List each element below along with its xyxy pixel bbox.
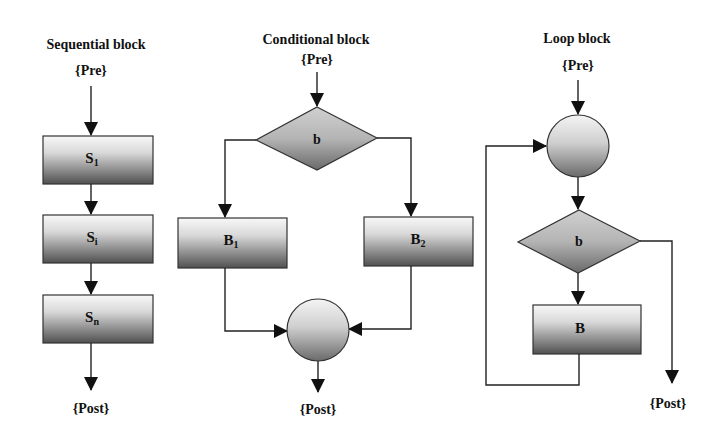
arrow-b-true-to-b1: [225, 140, 256, 217]
loop-entry-node: [547, 115, 609, 177]
sequential-title: Sequential block: [46, 37, 145, 52]
sequential-pre-label: {Pre}: [75, 63, 107, 78]
loop-pre-label: {Pre}: [562, 58, 594, 73]
node-b2: B2: [364, 217, 473, 266]
arrow-b1-to-merge: [225, 268, 287, 331]
sequential-block: Sequential block {Pre} S1 Si Sn {Post}: [43, 37, 153, 416]
node-sn: Sn: [43, 295, 153, 343]
svg-text:b: b: [575, 234, 583, 249]
conditional-pre-label: {Pre}: [301, 52, 333, 67]
flowchart-diagram: Sequential block {Pre} S1 Si Sn {Post} C…: [0, 0, 721, 434]
svg-text:B: B: [575, 320, 585, 336]
node-s1: S1: [43, 136, 153, 184]
loop-block: Loop block {Pre} b B {Post}: [486, 31, 687, 411]
conditional-decision: b: [256, 107, 377, 170]
conditional-block: Conditional block {Pre} b B1 B2 {Post}: [178, 32, 473, 417]
arrow-b-false-to-b2: [377, 138, 411, 216]
node-b1: B1: [178, 218, 287, 268]
arrow-condition-exit: [640, 241, 672, 383]
conditional-post-label: {Post}: [300, 402, 337, 417]
node-loop-body: B: [533, 305, 641, 354]
sequential-post-label: {Post}: [73, 401, 110, 416]
arrow-b2-to-merge: [349, 266, 411, 329]
loop-title: Loop block: [543, 31, 611, 46]
conditional-title: Conditional block: [263, 32, 370, 47]
node-si: Si: [43, 215, 153, 263]
svg-text:b: b: [313, 132, 321, 147]
conditional-merge-node: [287, 299, 349, 361]
loop-post-label: {Post}: [650, 396, 687, 411]
loop-decision: b: [518, 210, 640, 273]
